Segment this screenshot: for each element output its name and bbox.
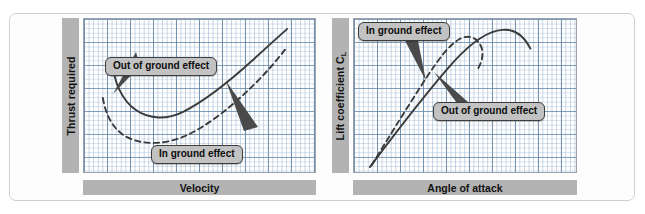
lift-coefficient-panel: Lift coefficient CL In ground effect Out… [322, 0, 645, 214]
y-axis-label-band-thrust: Thrust required [62, 18, 79, 173]
x-axis-label-angle-of-attack: Angle of attack [427, 182, 502, 194]
thrust-required-panel: Thrust required Out of ground effect In … [0, 0, 322, 214]
callout-out-of-ground-effect-lift[interactable]: Out of ground effect [433, 102, 545, 121]
callout-in-ground-effect-thrust[interactable]: In ground effect [151, 145, 243, 164]
callout-in-ground-effect-lift[interactable]: In ground effect [358, 22, 450, 41]
y-axis-label-thrust: Thrust required [65, 56, 77, 135]
figure-container: Thrust required Out of ground effect In … [0, 0, 645, 214]
x-axis-label-velocity: Velocity [180, 182, 220, 194]
plot-area-lift [353, 18, 577, 173]
callout-out-of-ground-effect-thrust[interactable]: Out of ground effect [105, 57, 217, 76]
callout-pointer-in-ground-effect-thrust [222, 81, 258, 131]
y-axis-label-lift-main: Lift coefficient C [335, 56, 347, 140]
y-axis-label-band-lift: Lift coefficient CL [332, 18, 349, 173]
x-axis-label-band-velocity: Velocity [83, 180, 316, 195]
x-axis-label-band-angle-of-attack: Angle of attack [353, 180, 577, 195]
y-axis-label-lift-subscript: L [340, 51, 349, 56]
y-axis-label-lift: Lift coefficient CL [335, 51, 347, 140]
